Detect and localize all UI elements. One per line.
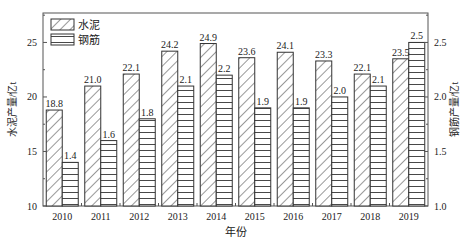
x-tick-label: 2019 [399,211,419,222]
data-label-cement: 23.5 [392,47,410,58]
legend-swatch-rebar [51,34,74,45]
y-axis-label-right: 钢筋产量/亿t [448,82,460,138]
x-tick-label: 2018 [360,211,380,222]
bar-cement [200,44,216,206]
bar-rebar [62,162,78,206]
y-tick-label: 25 [27,37,37,48]
bar-rebar [139,119,155,206]
data-label-cement: 24.9 [200,32,218,43]
data-label-rebar: 1.9 [295,96,308,107]
data-label-cement: 18.8 [46,98,64,109]
data-label-rebar: 2.2 [218,63,231,74]
legend-swatch-cement [51,19,74,30]
bar-rebar [178,86,194,206]
data-label-cement: 23.3 [315,49,333,60]
data-label-rebar: 2.5 [411,30,424,41]
x-tick-label: 2011 [91,211,111,222]
x-axis-label: 年份 [225,225,247,238]
data-label-cement: 24.2 [161,39,179,50]
data-label-cement: 22.1 [354,62,372,73]
bar-rebar [101,141,117,206]
x-tick-label: 2014 [206,211,226,222]
bar-cement [46,110,62,206]
y-right-tick-label: 1.0 [434,201,447,212]
data-label-cement: 21.0 [84,74,102,85]
x-tick-label: 2015 [245,211,265,222]
bar-cement [277,52,293,206]
y-right-tick-label: 1.5 [434,146,447,157]
bar-rebar [293,108,309,206]
bar-cement [85,86,101,206]
data-label-rebar: 1.6 [103,129,116,140]
legend-label-cement: 水泥 [78,19,100,31]
bar-cement [162,51,178,206]
x-tick-label: 2012 [129,211,149,222]
bar-rebar [370,86,386,206]
bar-rebar [216,75,232,206]
data-label-cement: 23.6 [238,46,256,57]
bar-cement [354,74,370,206]
data-label-rebar: 2.1 [372,74,385,85]
chart: 18.81.4201021.01.6201122.11.8201224.22.1… [0,0,471,243]
y-tick-label: 20 [27,91,37,102]
data-label-rebar: 1.4 [64,150,77,161]
data-label-cement: 24.1 [277,40,295,51]
plot-area: 18.81.4201021.01.6201122.11.8201224.22.1… [6,13,460,238]
x-tick-label: 2013 [168,211,188,222]
y-axis-label-left: 水泥产量/亿t [6,82,18,138]
bar-rebar [409,42,425,206]
data-label-rebar: 2.0 [334,85,347,96]
bar-cement [123,74,139,206]
bar-cement [239,58,255,206]
y-tick-label: 10 [27,201,37,212]
y-right-tick-label: 2.5 [434,37,447,48]
legend-label-rebar: 钢筋 [78,33,100,46]
bar-rebar [332,97,348,206]
x-tick-label: 2010 [52,211,72,222]
x-tick-label: 2017 [322,211,342,222]
x-tick-label: 2016 [283,211,303,222]
bar-rebar [255,108,271,206]
bar-cement [316,61,332,206]
data-label-rebar: 2.1 [180,74,193,85]
data-label-rebar: 1.8 [141,107,154,118]
y-tick-label: 15 [27,146,37,157]
y-right-tick-label: 2.0 [434,91,447,102]
data-label-cement: 22.1 [123,62,141,73]
data-label-rebar: 1.9 [257,96,270,107]
bar-cement [393,59,409,206]
